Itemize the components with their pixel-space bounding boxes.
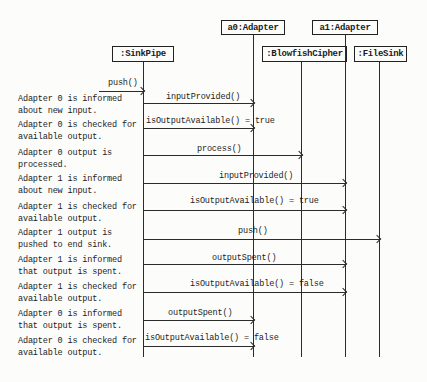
- annotation-line: Adapter 1 is checked for: [18, 201, 137, 213]
- annotation-line: processed.: [18, 159, 112, 171]
- object-box-blowfishcipher: :BlowfishCipher: [262, 46, 347, 62]
- annotation-line: Adapter 0 output is: [18, 147, 112, 159]
- annotation-line: available output.: [18, 347, 137, 359]
- annotation-line: pushed to end sink.: [18, 239, 112, 251]
- object-box-a0-adapter: a0:Adapter: [221, 20, 285, 35]
- annotation-line: that output is spent.: [18, 320, 122, 332]
- annotation-line: about new input.: [18, 185, 122, 197]
- annotation-9: Adapter 0 is informed that output is spe…: [18, 308, 122, 332]
- message-arrow-inputprovided-a1: [143, 183, 345, 184]
- annotation-1: Adapter 0 is informed about new input.: [18, 93, 122, 117]
- message-label-process: process(): [197, 144, 242, 154]
- message-label-isoutputavailable-a1-false: isOutputAvailable() = false: [190, 279, 324, 289]
- object-box-filesink: :FileSink: [354, 46, 407, 62]
- annotation-line: Adapter 1 is checked for: [18, 281, 137, 293]
- message-arrow-isoutputavailable-a1-false: [143, 292, 345, 293]
- message-label-push-2: push(): [238, 226, 268, 236]
- message-label-isoutputavailable-a0-false: isOutputAvailable() = false: [145, 333, 279, 343]
- annotation-line: Adapter 0 is checked for: [18, 335, 137, 347]
- message-label-isoutputavailable-a1-true: isOutputAvailable() = true: [190, 196, 319, 206]
- annotation-6: Adapter 1 output is pushed to end sink.: [18, 227, 112, 251]
- annotation-line: available output.: [18, 213, 137, 225]
- object-label: :BlowfishCipher: [266, 49, 343, 59]
- annotation-8: Adapter 1 is checked for available outpu…: [18, 281, 137, 305]
- annotation-line: Adapter 1 output is: [18, 227, 112, 239]
- object-box-a1-adapter: a1:Adapter: [312, 20, 378, 35]
- message-arrow-outputspent-a1: [143, 264, 345, 265]
- message-label-isoutputavailable-a0-true: isOutputAvailable() = true: [146, 116, 275, 126]
- annotation-line: available output.: [18, 293, 137, 305]
- message-arrow-isoutputavailable-a1-true: [143, 210, 345, 211]
- object-label: :SinkPipe: [120, 49, 166, 59]
- annotation-line: Adapter 1 is informed: [18, 254, 122, 266]
- sequence-diagram: a0:Adapter a1:Adapter :SinkPipe :Blowfis…: [0, 0, 427, 382]
- message-arrow-process: [143, 155, 301, 156]
- lifeline-filesink: [379, 62, 380, 357]
- annotation-3: Adapter 0 output is processed.: [18, 147, 112, 171]
- object-box-sinkpipe: :SinkPipe: [112, 46, 174, 62]
- annotation-line: Adapter 1 is informed: [18, 173, 122, 185]
- annotation-line: Adapter 0 is informed: [18, 308, 122, 320]
- message-arrow-isoutputavailable-a0-true: [143, 128, 253, 129]
- annotation-line: Adapter 0 is checked for: [18, 119, 137, 131]
- message-arrow-isoutputavailable-a0-false: [143, 346, 253, 347]
- message-arrow-push-2: [143, 239, 379, 240]
- message-label-outputspent-a1: outputSpent(): [212, 253, 276, 263]
- annotation-10: Adapter 0 is checked for available outpu…: [18, 335, 137, 359]
- annotation-2: Adapter 0 is checked for available outpu…: [18, 119, 137, 143]
- annotation-line: Adapter 0 is informed: [18, 93, 122, 105]
- message-arrow-inputprovided-a0: [143, 103, 253, 104]
- message-label-push-1: push(): [108, 78, 138, 88]
- message-label-outputspent-a0: outputSpent(): [168, 308, 232, 318]
- lifeline-a1-adapter: [345, 35, 346, 357]
- annotation-4: Adapter 1 is informed about new input.: [18, 173, 122, 197]
- annotation-line: available output.: [18, 131, 137, 143]
- message-arrow-outputspent-a0: [143, 320, 253, 321]
- message-label-inputprovided-a0: inputProvided(): [166, 92, 240, 102]
- annotation-7: Adapter 1 is informed that output is spe…: [18, 254, 122, 278]
- annotation-5: Adapter 1 is checked for available outpu…: [18, 201, 137, 225]
- object-label: :FileSink: [358, 49, 404, 59]
- annotation-line: that output is spent.: [18, 266, 122, 278]
- message-label-inputprovided-a1: inputProvided(): [219, 171, 293, 181]
- annotation-line: about new input.: [18, 105, 122, 117]
- object-label: a0:Adapter: [227, 23, 278, 33]
- object-label: a1:Adapter: [319, 23, 370, 33]
